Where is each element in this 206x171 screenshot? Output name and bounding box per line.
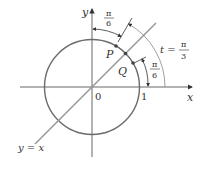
unit-circle-diagram: y x 0 1 P Q y = x π 6 π 6 t = π 3 <box>0 0 206 171</box>
tick-pi-over-6-q <box>134 57 146 63</box>
t-equals-label: t = <box>160 44 176 55</box>
point-q <box>131 61 135 65</box>
top-fraction-numerator: π <box>106 9 111 18</box>
y-axis-label: y <box>81 6 89 19</box>
right-fraction-denominator: 6 <box>152 71 157 80</box>
right-fraction-numerator: π <box>152 60 157 69</box>
point-p-label: P <box>105 48 114 61</box>
point-mid <box>124 52 128 56</box>
t-fraction-denominator: 3 <box>181 52 186 61</box>
origin-label: 0 <box>95 91 101 102</box>
point-q-label: Q <box>118 65 127 78</box>
arc-pi-over-6-top <box>93 29 121 37</box>
line-y-equals-x <box>35 23 156 144</box>
arc-pi-over-6-right <box>142 59 148 86</box>
one-label: 1 <box>141 91 147 102</box>
point-p <box>114 44 118 48</box>
top-fraction-denominator: 6 <box>106 19 111 28</box>
line-label: y = x <box>17 142 44 153</box>
x-axis-label: x <box>187 91 194 104</box>
t-fraction-numerator: π <box>181 40 186 49</box>
tick-pi-over-3 <box>118 18 132 42</box>
